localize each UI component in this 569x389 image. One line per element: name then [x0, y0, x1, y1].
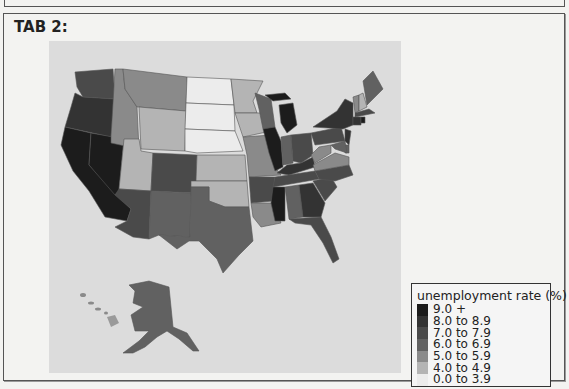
chart-legend: unemployment rate (%) 9.0 + 8.0 to 8.9 7…: [411, 283, 551, 387]
state-WY: [139, 107, 186, 151]
legend-swatch: [417, 374, 428, 386]
state-VT: [353, 95, 359, 113]
us-choropleth-map: [49, 41, 401, 373]
state-WA: [75, 69, 115, 99]
tab-title: TAB 2:: [14, 18, 68, 36]
state-NM: [149, 191, 191, 239]
state-NE: [185, 129, 243, 153]
state-AK: [123, 281, 199, 353]
legend-swatch: [417, 327, 428, 339]
legend-title: unemployment rate (%): [417, 288, 550, 303]
state-RI: [361, 117, 365, 123]
state-SD: [185, 103, 235, 131]
state-AR: [249, 177, 275, 203]
state-FL: [289, 217, 339, 263]
legend-swatch: [417, 316, 428, 328]
legend-swatch: [417, 351, 428, 363]
state-ME: [363, 71, 383, 105]
legend-label: 0.0 to 3.9: [433, 374, 491, 385]
state-ND: [186, 77, 234, 105]
state-NY: [313, 99, 353, 129]
legend-swatch: [417, 304, 428, 316]
state-NJ: [345, 129, 351, 145]
state-CT: [353, 117, 361, 125]
map-panel: unemployment rate (%) 9.0 + 8.0 to 8.9 7…: [49, 41, 401, 373]
state-CO: [151, 153, 197, 193]
legend-swatch: [417, 339, 428, 351]
state-HI: [80, 293, 119, 327]
state-KS: [196, 155, 247, 181]
legend-swatch: [417, 362, 428, 374]
tab-panel: TAB 2:: [3, 13, 565, 381]
previous-panel-frame: [4, 0, 565, 7]
legend-item: 0.0 to 3.9: [417, 374, 550, 386]
